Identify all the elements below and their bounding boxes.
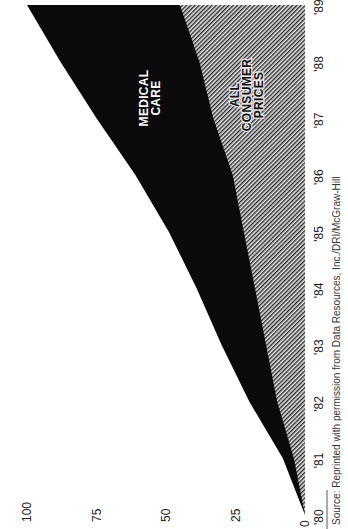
source-note: Source: Reprinted with permission from D…: [327, 177, 342, 529]
year-tick-label: '83: [312, 339, 326, 355]
value-tick-label: 0: [298, 520, 312, 527]
source-note-text: Source: Reprinted with permission from D…: [331, 177, 342, 525]
value-tick-label: 25: [229, 508, 243, 522]
year-tick-label: '85: [312, 226, 326, 242]
year-tick-label: '80: [312, 509, 326, 525]
svg-text:CARE: CARE: [149, 80, 163, 115]
year-axis-ticks: '80'81'82'83'84'85'86'87'88'89: [312, 0, 326, 525]
year-tick-label: '86: [312, 169, 326, 185]
year-tick-label: '81: [312, 452, 326, 468]
year-tick-label: '84: [312, 282, 326, 298]
value-tick-label: 75: [90, 508, 104, 522]
value-tick-label: 50: [159, 508, 173, 522]
value-axis-ticks: 0255075100: [20, 502, 312, 527]
year-tick-label: '89: [312, 0, 326, 15]
year-tick-label: '88: [312, 56, 326, 72]
value-tick-label: 100: [20, 502, 34, 522]
cumulative-price-increase-chart: 0255075100 '80'81'82'83'84'85'86'87'88'8…: [0, 0, 348, 529]
year-tick-label: '87: [312, 112, 326, 128]
svg-text:PRICES: PRICES: [252, 72, 266, 118]
year-tick-label: '82: [312, 396, 326, 412]
